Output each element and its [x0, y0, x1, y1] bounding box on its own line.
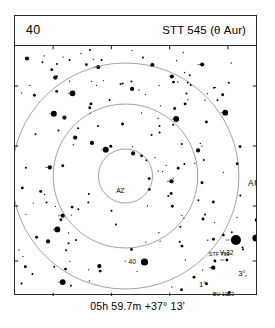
- star-chart-plot: 1°3°5°AZ θ-37V-32T-2928U-3140SZBU 1053ST…: [15, 46, 256, 296]
- labeled-star-layer: θ-37V-32T-2928U-3140SZBU 1053STF 799STF …: [86, 178, 256, 296]
- svg-text:AZ: AZ: [116, 187, 124, 194]
- coordinates-caption: 05h 59.7m +37° 13': [0, 300, 275, 312]
- svg-text:40: 40: [128, 258, 136, 265]
- svg-text:3°: 3°: [238, 269, 245, 278]
- page-title: STT 545 (θ Aur): [162, 24, 246, 36]
- svg-text:BU 1053: BU 1053: [213, 291, 234, 296]
- page-number: 40: [26, 23, 40, 37]
- finder-chart-page: 40 STT 545 (θ Aur) 1°3°5°AZ θ-37V-32T-29…: [0, 0, 275, 328]
- chart-header: 40 STT 545 (θ Aur): [15, 16, 256, 46]
- star-field-svg: 1°3°5°AZ θ-37V-32T-2928U-3140SZBU 1053ST…: [15, 46, 256, 296]
- chart-frame: 40 STT 545 (θ Aur) 1°3°5°AZ θ-37V-32T-29…: [14, 15, 257, 295]
- svg-text:1°: 1°: [199, 280, 206, 289]
- svg-text:STF 799: STF 799: [209, 251, 230, 257]
- svg-text:AURIGA: AURIGA: [248, 178, 256, 188]
